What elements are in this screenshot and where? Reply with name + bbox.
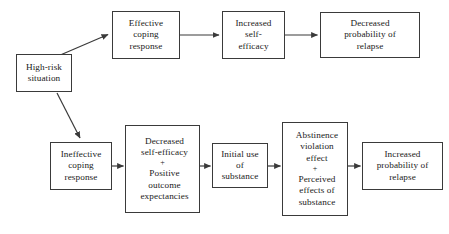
node-increased-probability-of-relapse: Increased probability of relapse	[362, 142, 443, 190]
node-high-risk-situation: High-risk situation	[16, 54, 72, 92]
node-label-part-two: Positive outcome expectancies	[136, 168, 192, 202]
edge-high-risk-to-ineffective-coping	[57, 93, 80, 138]
node-label: Effective coping response	[113, 18, 179, 52]
node-label: High-risk situation	[17, 62, 71, 85]
node-decreased-self-efficacy-positive-outcome-expectancies: Decreased self-efficacy + Positive outco…	[125, 125, 200, 213]
node-increased-self-efficacy: Increased self- efficacy	[222, 11, 285, 59]
node-decreased-probability-of-relapse: Decreased probability of relapse	[320, 12, 420, 58]
node-label: Decreased probability of relapse	[321, 18, 419, 52]
node-initial-use-of-substance: Initial use of substance	[212, 143, 268, 188]
relapse-process-flowchart: High-risk situation Effective coping res…	[0, 0, 449, 234]
node-label: Increased self- efficacy	[223, 18, 284, 52]
node-label-part-one: Abstinence violation effect	[292, 130, 342, 164]
node-label-part-two: Perceived effects of substance	[292, 174, 342, 208]
node-label: Initial use of substance	[213, 149, 267, 183]
node-abstinence-violation-effect-perceived-effects: Abstinence violation effect + Perceived …	[282, 122, 348, 216]
edge-high-risk-to-effective-coping	[58, 35, 108, 57]
node-label-group: Abstinence violation effect + Perceived …	[292, 130, 338, 208]
node-effective-coping-response: Effective coping response	[112, 11, 180, 59]
node-label-group: Decreased self-efficacy + Positive outco…	[136, 136, 188, 202]
node-label: Increased probability of relapse	[363, 149, 442, 183]
node-ineffective-coping-response: Ineffective coping response	[50, 142, 112, 190]
node-label-plus: +	[292, 164, 338, 174]
node-label-plus: +	[136, 158, 188, 168]
node-label-part-one: Decreased self-efficacy	[136, 136, 192, 159]
node-label: Ineffective coping response	[51, 149, 111, 183]
